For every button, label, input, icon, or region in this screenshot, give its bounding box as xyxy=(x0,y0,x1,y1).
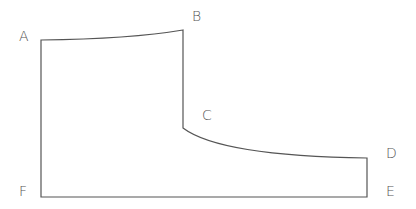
label-f: F xyxy=(19,183,27,199)
label-d: D xyxy=(386,145,397,161)
label-c: C xyxy=(202,107,212,123)
label-e: E xyxy=(386,183,395,199)
label-a: A xyxy=(19,28,29,44)
diagram-canvas: A B C D E F xyxy=(0,0,416,209)
label-b: B xyxy=(192,8,201,24)
